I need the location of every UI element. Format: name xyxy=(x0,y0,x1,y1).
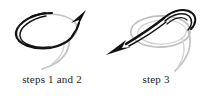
diagram-panel-steps-1-and-2: steps 1 and 2 xyxy=(0,0,104,96)
caption-steps-1-and-2: steps 1 and 2 xyxy=(0,72,104,86)
loop-illustration-step-3 xyxy=(104,0,208,72)
caption-step-3: step 3 xyxy=(104,72,208,86)
diagram-panel-step-3: step 3 xyxy=(104,0,208,96)
loop-illustration-steps-1-and-2 xyxy=(0,0,104,72)
dark-strand-pull-through xyxy=(126,18,164,44)
instructional-diagram: steps 1 and 2 step xyxy=(0,0,208,96)
